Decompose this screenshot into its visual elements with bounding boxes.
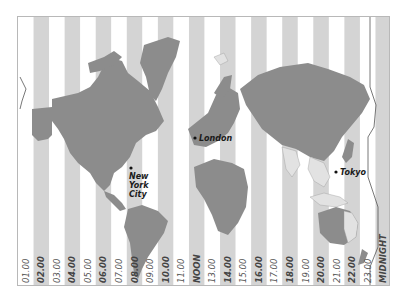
city-london: London [193, 134, 232, 143]
time-zone-label: 19.00 [301, 259, 311, 283]
time-zone-stripe [267, 17, 283, 286]
time-zone-label: 09.00 [145, 259, 155, 283]
time-zone-label: 17.00 [269, 259, 279, 283]
time-zone-label: 04.00 [67, 256, 77, 283]
city-label-new-york-3: City [129, 190, 147, 199]
city-dot-london [193, 136, 196, 139]
time-zone-label: 16.00 [254, 256, 264, 283]
city-label-tokyo: Tokyo [340, 168, 366, 177]
city-tokyo: Tokyo [334, 168, 366, 177]
time-zone-stripe [34, 17, 50, 286]
time-zone-label: 03.00 [52, 259, 62, 283]
city-dot-tokyo [334, 170, 337, 173]
time-zone-label: 18.00 [285, 256, 295, 283]
time-zone-label: 21.00 [332, 259, 342, 283]
city-new-york: New York City [129, 166, 149, 199]
city-dot-new-york [129, 166, 132, 169]
time-zone-stripe [49, 17, 65, 286]
map-canvas: New York City London Tokyo 01.0002.0003.… [18, 17, 390, 286]
time-zone-stripe [236, 17, 252, 286]
city-label-new-york-1: New [129, 172, 149, 181]
world-time-zone-map: New York City London Tokyo 01.0002.0003.… [17, 16, 390, 286]
land-alaska [32, 107, 52, 141]
time-zone-label: 07.00 [114, 259, 124, 283]
time-zone-label: 15.00 [238, 259, 248, 283]
time-zone-stripe [189, 17, 205, 286]
time-zone-label: 05.00 [83, 259, 93, 283]
time-zone-label: 20.00 [316, 256, 326, 283]
time-zone-label: MIDNIGHT [378, 233, 388, 283]
time-zone-label: 01.00 [21, 259, 31, 283]
time-zone-label: 23.00 [363, 259, 373, 283]
time-zone-label: 14.00 [223, 256, 233, 283]
time-zone-label: 11.00 [176, 259, 186, 283]
time-zone-label: 08.00 [130, 256, 140, 283]
time-zone-label: 06.00 [98, 256, 108, 283]
time-zone-label: 10.00 [161, 256, 171, 283]
time-zone-label: 13.00 [207, 259, 217, 283]
city-label-london: London [199, 134, 233, 143]
time-zone-label: 02.00 [36, 256, 46, 283]
time-zone-label: 22.00 [347, 256, 357, 283]
city-label-new-york-2: York [129, 181, 149, 190]
time-zone-stripe [251, 17, 267, 286]
time-zone-stripe [18, 17, 34, 286]
time-zone-label: NOON [192, 254, 202, 283]
